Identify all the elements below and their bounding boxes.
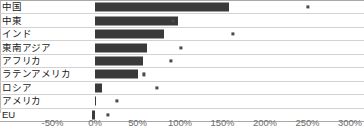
x-axis-tick-label: 300% <box>338 117 362 128</box>
chart-row: アメリカ <box>0 95 364 108</box>
marker-point <box>172 19 175 22</box>
category-label: アメリカ <box>2 96 41 106</box>
chart-row: 中国 <box>0 1 364 14</box>
x-axis-tick-label: 200% <box>253 117 277 128</box>
chart-row: インド <box>0 28 364 41</box>
chart-row: 東南アジア <box>0 41 364 54</box>
horizontal-bar-chart: 中国 中東 インド 東南アジア アフリカ ラテンアメリカ <box>0 0 364 134</box>
category-label: ラテンアメリカ <box>2 69 71 79</box>
plot-area: 中国 中東 インド 東南アジア アフリカ ラテンアメリカ <box>0 1 364 113</box>
category-label: 中国 <box>2 2 22 12</box>
bar-value <box>95 56 143 65</box>
marker-point <box>155 86 158 89</box>
x-axis-tick-label: 100% <box>168 117 192 128</box>
marker-point <box>306 6 309 9</box>
category-label: 東南アジア <box>2 43 51 53</box>
chart-row: ロシア <box>0 82 364 95</box>
marker-point <box>231 33 234 36</box>
x-axis-tick-label: 50% <box>128 117 147 128</box>
category-label: インド <box>2 29 31 39</box>
category-label: アフリカ <box>2 56 41 66</box>
marker-point <box>179 46 182 49</box>
category-label: 中東 <box>2 16 22 26</box>
marker-point <box>169 59 172 62</box>
chart-row: ラテンアメリカ <box>0 68 364 81</box>
category-label: ロシア <box>2 83 31 93</box>
bar-value <box>95 30 164 39</box>
x-axis-tick-label: 250% <box>296 117 320 128</box>
bar-value <box>95 3 229 12</box>
x-axis-tick-label: 150% <box>211 117 235 128</box>
x-axis-tick-label: 0% <box>88 117 102 128</box>
chart-row: アフリカ <box>0 55 364 68</box>
chart-row: 中東 <box>0 14 364 27</box>
x-axis-tick-label: -50% <box>42 117 64 128</box>
bar-value <box>95 70 138 79</box>
marker-point <box>143 73 146 76</box>
marker-point <box>116 100 119 103</box>
bar-value <box>95 83 102 92</box>
bar-value <box>95 97 96 106</box>
bar-value <box>95 43 147 52</box>
bar-value <box>95 16 178 25</box>
x-axis: -50%0%50%100%150%200%250%300% <box>0 113 364 134</box>
